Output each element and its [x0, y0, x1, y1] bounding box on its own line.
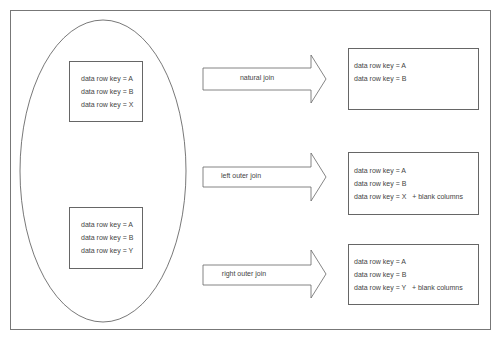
right-outer-join-label: right outer join — [203, 270, 285, 277]
table-row: data row key = X + blank columns — [354, 190, 478, 203]
table-row: data row key = A — [81, 218, 142, 231]
right-outer-join-result: data row key = A data row key = B data r… — [348, 244, 479, 305]
table-row: data row key = B — [81, 85, 142, 98]
table-row: data row key = B — [354, 268, 478, 281]
source-table-2: data row key = A data row key = B data r… — [69, 207, 143, 269]
table-row: data row key = A — [354, 59, 478, 72]
left-outer-join-result: data row key = A data row key = B data r… — [348, 152, 479, 215]
table-row: data row key = B — [354, 177, 478, 190]
natural-join-label: natural join — [203, 74, 311, 81]
table-row: data row key = A — [354, 255, 478, 268]
table-row: data row key = Y — [81, 244, 142, 257]
table-row: data row key = A — [81, 72, 142, 85]
source-table-1: data row key = A data row key = B data r… — [69, 61, 143, 122]
table-row: data row key = X — [81, 98, 142, 111]
natural-join-result: data row key = A data row key = B — [348, 48, 479, 110]
table-row: data row key = A — [354, 164, 478, 177]
table-row: data row key = B — [81, 231, 142, 244]
table-row: data row key = B — [354, 72, 478, 85]
left-outer-join-label: left outer join — [203, 172, 279, 179]
table-row: data row key = Y + blank columns — [354, 281, 478, 294]
